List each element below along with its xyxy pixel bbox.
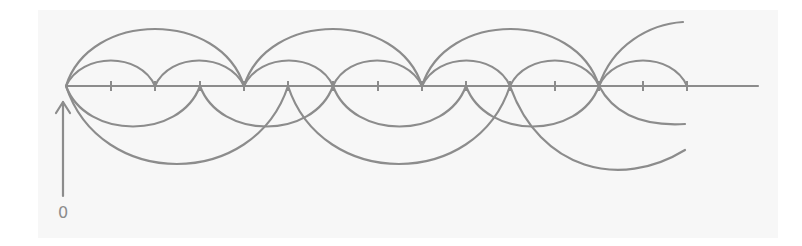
- hop-arc-10-partial: [510, 86, 685, 170]
- hop-arc-12-partial: [599, 22, 683, 86]
- hop-arc-6-9: [333, 86, 466, 127]
- origin-arrow: [56, 102, 70, 196]
- hop-series-4-above: [66, 22, 683, 86]
- hop-arc-0-3: [66, 86, 200, 127]
- diagram-canvas: 0: [0, 0, 802, 246]
- hop-arc-8-12: [422, 29, 599, 86]
- hop-arc-12-partial: [599, 86, 685, 124]
- origin-label: 0: [58, 203, 68, 222]
- hop-series-3-below: [66, 86, 685, 127]
- hop-arc-5-10: [288, 86, 510, 164]
- hop-arc-3-6: [200, 86, 333, 127]
- hop-arc-4-8: [244, 29, 422, 86]
- hop-arc-9-12: [466, 86, 599, 127]
- number-line-diagram: [0, 0, 802, 246]
- hop-arc-0-4: [66, 29, 244, 86]
